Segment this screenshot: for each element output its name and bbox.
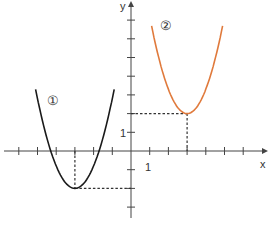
- parabola-2: [152, 26, 223, 114]
- y-tick-label: 1: [120, 127, 126, 139]
- axes: [4, 1, 268, 218]
- coordinate-plot: x y 1 1 ① ②: [0, 0, 269, 227]
- x-axis-label: x: [260, 158, 266, 170]
- curve1-label: ①: [47, 93, 59, 108]
- curve2-label: ②: [160, 18, 172, 33]
- y-axis-arrow-icon: [128, 1, 134, 7]
- x-axis-arrow-icon: [262, 148, 268, 154]
- parabolas: [36, 26, 223, 189]
- y-axis-label: y: [120, 0, 126, 12]
- x-tick-label: 1: [145, 161, 151, 173]
